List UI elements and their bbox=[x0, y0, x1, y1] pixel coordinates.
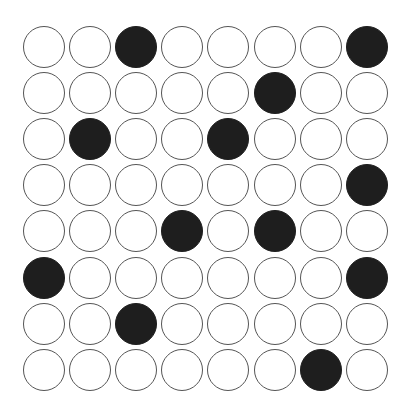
empty-circle[interactable] bbox=[207, 164, 249, 206]
empty-circle[interactable] bbox=[300, 26, 342, 68]
empty-circle[interactable] bbox=[254, 118, 296, 160]
empty-circle[interactable] bbox=[346, 349, 388, 391]
empty-circle[interactable] bbox=[300, 72, 342, 114]
empty-circle[interactable] bbox=[23, 349, 65, 391]
empty-circle[interactable] bbox=[300, 303, 342, 345]
empty-circle[interactable] bbox=[254, 164, 296, 206]
empty-circle[interactable] bbox=[207, 210, 249, 252]
empty-circle[interactable] bbox=[207, 257, 249, 299]
empty-circle[interactable] bbox=[115, 72, 157, 114]
empty-circle[interactable] bbox=[254, 303, 296, 345]
empty-circle[interactable] bbox=[346, 118, 388, 160]
filled-circle[interactable] bbox=[346, 257, 388, 299]
empty-circle[interactable] bbox=[161, 26, 203, 68]
empty-circle[interactable] bbox=[207, 26, 249, 68]
empty-circle[interactable] bbox=[161, 118, 203, 160]
empty-circle[interactable] bbox=[161, 349, 203, 391]
empty-circle[interactable] bbox=[23, 118, 65, 160]
filled-circle[interactable] bbox=[300, 349, 342, 391]
empty-circle[interactable] bbox=[254, 349, 296, 391]
empty-circle[interactable] bbox=[69, 349, 111, 391]
empty-circle[interactable] bbox=[69, 303, 111, 345]
empty-circle[interactable] bbox=[161, 257, 203, 299]
empty-circle[interactable] bbox=[23, 164, 65, 206]
empty-circle[interactable] bbox=[346, 210, 388, 252]
empty-circle[interactable] bbox=[161, 72, 203, 114]
filled-circle[interactable] bbox=[254, 72, 296, 114]
empty-circle[interactable] bbox=[69, 26, 111, 68]
empty-circle[interactable] bbox=[69, 164, 111, 206]
empty-circle[interactable] bbox=[23, 72, 65, 114]
filled-circle[interactable] bbox=[207, 118, 249, 160]
empty-circle[interactable] bbox=[207, 303, 249, 345]
empty-circle[interactable] bbox=[300, 210, 342, 252]
empty-circle[interactable] bbox=[254, 26, 296, 68]
empty-circle[interactable] bbox=[300, 118, 342, 160]
empty-circle[interactable] bbox=[346, 303, 388, 345]
filled-circle[interactable] bbox=[346, 164, 388, 206]
empty-circle[interactable] bbox=[161, 164, 203, 206]
filled-circle[interactable] bbox=[254, 210, 296, 252]
filled-circle[interactable] bbox=[346, 26, 388, 68]
empty-circle[interactable] bbox=[23, 26, 65, 68]
empty-circle[interactable] bbox=[207, 72, 249, 114]
empty-circle[interactable] bbox=[161, 303, 203, 345]
empty-circle[interactable] bbox=[23, 303, 65, 345]
filled-circle[interactable] bbox=[161, 210, 203, 252]
filled-circle[interactable] bbox=[115, 303, 157, 345]
empty-circle[interactable] bbox=[300, 257, 342, 299]
empty-circle[interactable] bbox=[115, 118, 157, 160]
empty-circle[interactable] bbox=[300, 164, 342, 206]
filled-circle[interactable] bbox=[23, 257, 65, 299]
empty-circle[interactable] bbox=[346, 72, 388, 114]
filled-circle[interactable] bbox=[69, 118, 111, 160]
empty-circle[interactable] bbox=[115, 349, 157, 391]
filled-circle[interactable] bbox=[115, 26, 157, 68]
empty-circle[interactable] bbox=[23, 210, 65, 252]
empty-circle[interactable] bbox=[69, 257, 111, 299]
empty-circle[interactable] bbox=[69, 210, 111, 252]
empty-circle[interactable] bbox=[69, 72, 111, 114]
empty-circle[interactable] bbox=[115, 164, 157, 206]
empty-circle[interactable] bbox=[115, 257, 157, 299]
empty-circle[interactable] bbox=[207, 349, 249, 391]
game-board bbox=[0, 0, 408, 414]
empty-circle[interactable] bbox=[115, 210, 157, 252]
empty-circle[interactable] bbox=[254, 257, 296, 299]
